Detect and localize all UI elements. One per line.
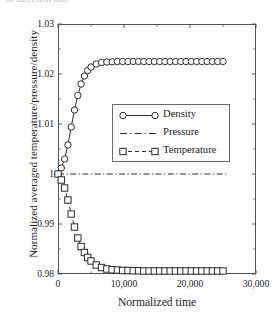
y-tick-label: 0.99 bbox=[37, 219, 54, 229]
x-tick-label: 20,000 bbox=[160, 279, 220, 289]
legend-swatch-pressure bbox=[117, 125, 161, 142]
legend-label-density: Density bbox=[163, 108, 196, 119]
legend-swatch-temperature bbox=[117, 143, 161, 160]
x-axis-label: Normalized time bbox=[58, 296, 256, 309]
y-tick-label: 1.02 bbox=[37, 69, 54, 79]
legend-label-pressure: Pressure bbox=[163, 126, 199, 137]
legend-entry-density: Density bbox=[117, 107, 229, 124]
x-tick-label: 0 bbox=[28, 279, 88, 289]
legend-entry-pressure: Pressure bbox=[117, 125, 229, 142]
legend-entry-temperature: Temperature bbox=[117, 143, 229, 160]
y-tick-label: 1 bbox=[49, 169, 54, 179]
y-tick-label: 0.98 bbox=[37, 269, 54, 279]
legend-swatch-density bbox=[117, 107, 161, 124]
y-tick-label: 1.01 bbox=[37, 119, 54, 129]
x-tick-label: 10,000 bbox=[94, 279, 154, 289]
legend-label-temperature: Temperature bbox=[163, 144, 216, 155]
figure-container: of direction and Normalized averaged tem… bbox=[0, 0, 278, 318]
y-tick-label: 1.03 bbox=[37, 19, 54, 29]
chart-legend: Density Pressure Temperature bbox=[112, 104, 230, 162]
x-tick-label: 30,000 bbox=[226, 279, 278, 289]
